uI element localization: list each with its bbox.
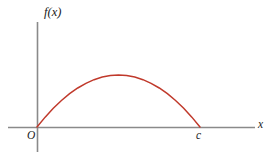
origin-label: O [27, 130, 35, 142]
parabola-figure: f(x) O c x [0, 0, 273, 158]
figure-canvas [0, 0, 273, 158]
y-axis-label: f(x) [44, 6, 61, 19]
parabola-curve [37, 75, 200, 127]
root-c-label: c [196, 130, 201, 142]
x-axis-label: x [258, 119, 263, 131]
